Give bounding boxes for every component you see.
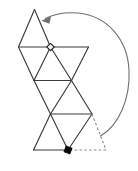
solid-edge-group — [19, 10, 93, 151]
dashed-right-slant — [92, 114, 106, 150]
apex-right-down-to-mid-right — [51, 47, 72, 81]
rotation-arrow-curve — [46, 13, 130, 136]
lower-left-down — [34, 114, 51, 150]
top-apex-left-edge — [19, 10, 35, 48]
net-diagram-svg — [0, 0, 138, 171]
open-square-marker — [47, 43, 54, 50]
mid-up-to-apex-right — [34, 47, 51, 81]
lower-right-down — [68, 114, 92, 150]
filled-square-marker — [64, 146, 72, 154]
mid-left-down — [34, 81, 51, 115]
lower-inner-down — [51, 114, 69, 150]
rotation-arrow-group — [42, 13, 130, 136]
mid-right-down-outer — [72, 81, 93, 115]
top-apex-right-edge — [35, 10, 51, 48]
vertex-marker-group — [47, 43, 72, 154]
left-down-to-mid — [19, 47, 35, 81]
mid-right-down — [51, 81, 72, 115]
arrow-head-icon — [42, 16, 52, 24]
upper-right-slant — [72, 47, 89, 81]
diagram-root: Triangular net with fold rotation A stri… — [0, 0, 138, 171]
